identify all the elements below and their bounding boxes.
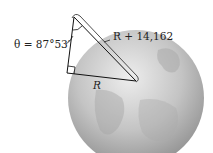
hypotenuse-label: R + 14,162 <box>113 30 173 42</box>
radius-label: R <box>92 79 101 91</box>
angle-arc <box>73 26 82 30</box>
earth-triangle-diagram: θ = 87°53′ R + 14,162 R <box>0 0 213 153</box>
earth-globe <box>68 30 204 153</box>
angle-label: θ = 87°53′ <box>14 38 71 50</box>
